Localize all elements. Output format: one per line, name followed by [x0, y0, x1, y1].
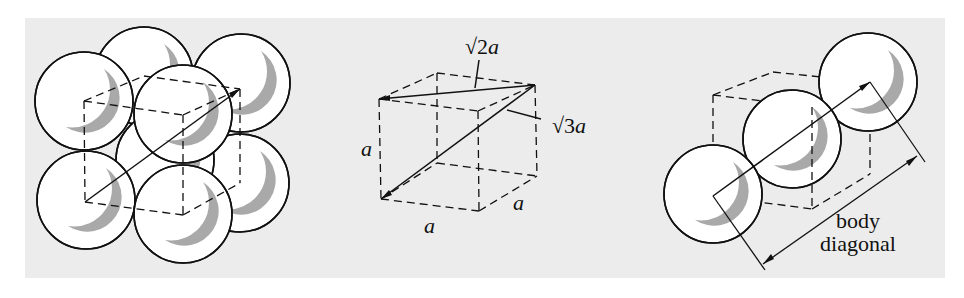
dimension-label-line1: body [836, 208, 880, 233]
bcc-unit-cell-diagram: √2a √3a a a a [0, 0, 964, 298]
dimension-label-line2: diagonal [820, 231, 896, 256]
edge-label-right: a [513, 190, 524, 215]
body-diagonal-label: √3a [552, 113, 586, 138]
sphere-corner-bottom [664, 145, 762, 243]
sphere [37, 151, 135, 249]
face-diagonal-label: √2a [465, 34, 499, 59]
edge-label-left: a [361, 136, 372, 161]
edge-label-bottom: a [424, 213, 435, 238]
